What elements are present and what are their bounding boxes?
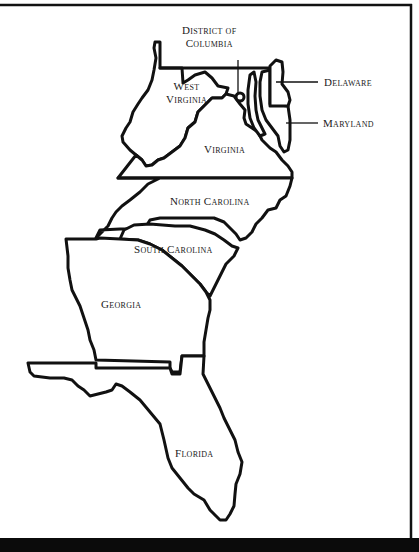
label-georgia: Georgia [101, 298, 141, 311]
label-virginia: Virginia [204, 143, 245, 156]
label-north-carolina: North Carolina [170, 195, 250, 208]
label-west-virginia-line2: Virginia [166, 93, 207, 106]
label-south-carolina: South Carolina [134, 243, 213, 256]
map-frame: District of Columbia Delaware Maryland W… [0, 0, 419, 552]
label-west-virginia-line1: West [166, 80, 207, 93]
state-florida[interactable] [28, 356, 242, 520]
label-florida: Florida [175, 447, 213, 460]
state-delaware[interactable] [270, 60, 290, 106]
label-maryland: Maryland [323, 117, 374, 130]
label-delaware: Delaware [324, 76, 372, 89]
label-dc: District of Columbia [182, 24, 236, 50]
label-dc-line1: District of [182, 24, 236, 37]
label-west-virginia: West Virginia [166, 80, 207, 106]
label-dc-line2: Columbia [182, 37, 236, 50]
bottom-black-band [0, 538, 419, 552]
dc-marker[interactable] [236, 93, 244, 101]
